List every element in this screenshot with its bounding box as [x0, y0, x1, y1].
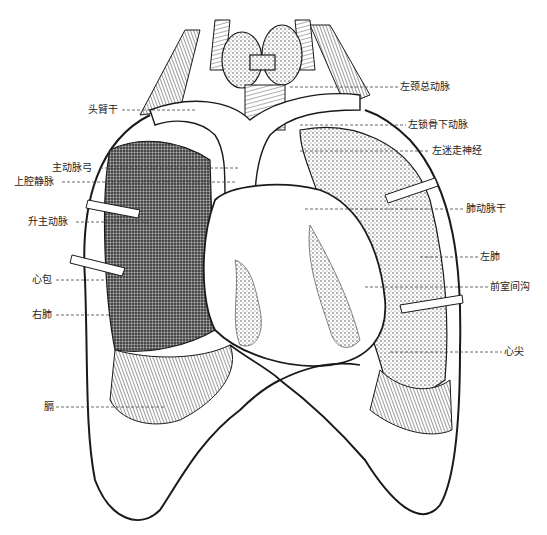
label-right-lung: 右肺 [32, 309, 52, 321]
label-superior-vena-cava: 上腔静脉 [14, 176, 54, 188]
thorax-illustration [0, 0, 547, 535]
label-apex: 心尖 [504, 346, 524, 358]
label-pulmonary-trunk: 肺动脉干 [466, 203, 506, 215]
label-brachiocephalic-trunk: 头臂干 [88, 104, 118, 116]
label-left-lung: 左肺 [480, 251, 500, 263]
label-ascending-aorta: 升主动脉 [28, 216, 68, 228]
label-anterior-interventricular-sulcus: 前室间沟 [490, 281, 530, 293]
label-aortic-arch: 主动脉弓 [52, 162, 92, 174]
label-left-vagus: 左迷走神经 [432, 145, 482, 157]
label-pericardium: 心包 [32, 274, 52, 286]
label-left-subclavian: 左锁骨下动脉 [408, 119, 468, 131]
label-left-common-carotid: 左颈总动脉 [400, 81, 450, 93]
thyroid-gland [222, 25, 302, 88]
right-lung-shape [105, 141, 215, 351]
anatomy-figure: 头臂干 主动脉弓 上腔静脉 升主动脉 心包 右肺 膈 左颈总动脉 左锁骨下动脉 … [0, 0, 547, 535]
label-diaphragm: 膈 [44, 401, 54, 413]
